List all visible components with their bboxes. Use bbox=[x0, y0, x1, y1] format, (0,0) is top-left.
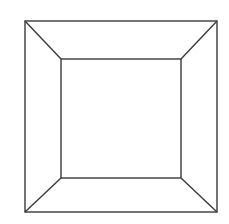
face-back bbox=[61, 59, 181, 178]
drawing-canvas bbox=[0, 0, 229, 224]
perspective-box-figure bbox=[0, 0, 229, 224]
box-faces-group bbox=[25, 21, 217, 212]
